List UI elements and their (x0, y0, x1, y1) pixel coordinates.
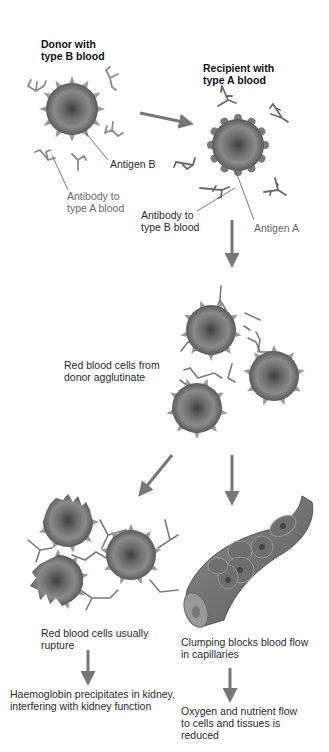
label-donor: Donor with type B blood (41, 38, 105, 62)
leader-lines-recipient (197, 172, 254, 220)
label-agglutinate: Red blood cells from donor agglutinate (64, 359, 160, 383)
label-antigen-b: Antigen B (110, 158, 156, 170)
label-recipient: Recipient with type A blood (203, 62, 274, 86)
label-rupture: Red blood cells usually rupture (41, 627, 148, 651)
donor-rbc (39, 76, 105, 142)
label-clumping: Clumping blocks blood flow in capillarie… (181, 636, 308, 660)
arrow-to-rupture (142, 455, 172, 492)
label-oxygen: Oxygen and nutrient flow to cells and ti… (181, 705, 297, 741)
capillary-blocked (180, 496, 313, 631)
label-antigen-a: Antigen A (254, 222, 299, 234)
label-haemoglobin: Haemoglobin precipitates in kidney, inte… (10, 688, 175, 712)
leader-lines-donor (52, 133, 108, 190)
arrow-donor-to-recipient (140, 113, 188, 123)
ruptured-cells (28, 494, 178, 610)
label-antibody-to-type-b: Antibody to type B blood (141, 209, 199, 233)
recipient-rbc (207, 114, 269, 176)
label-antibody-to-type-a: Antibody to type A blood (67, 190, 124, 214)
agglutinated-cluster (166, 286, 305, 439)
